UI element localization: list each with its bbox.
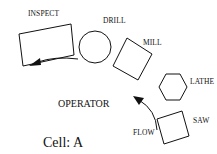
drill-label: DRILL — [103, 16, 126, 25]
flow-arrow — [139, 100, 157, 130]
flow-arrowhead — [133, 96, 144, 105]
lathe-station — [159, 74, 187, 100]
mill-label: MILL — [143, 38, 162, 47]
lathe-label: LATHE — [190, 77, 214, 86]
drill-station — [79, 31, 111, 63]
cell-label: Cell: A — [43, 135, 83, 151]
operator-label: OPERATOR — [58, 98, 110, 109]
flow-label: FLOW — [133, 128, 155, 137]
saw-label: SAW — [193, 116, 209, 125]
saw-station — [157, 111, 189, 144]
return-arrowhead — [29, 58, 41, 66]
inspect-label: INSPECT — [28, 9, 59, 18]
